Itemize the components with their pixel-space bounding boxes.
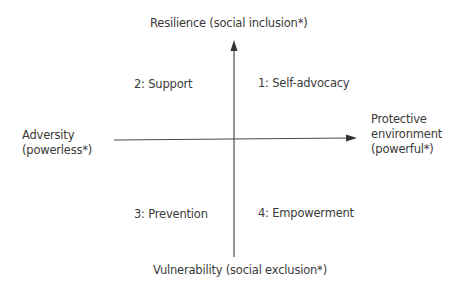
axis-label-bottom: Vulnerability (social exclusion*) (153, 263, 327, 278)
axis-label-left: Adversity (powerless*) (22, 128, 92, 158)
axis-label-top: Resilience (social inclusion*) (150, 16, 308, 31)
quadrant-3-label: 3: Prevention (134, 207, 208, 222)
axis-label-right: Protective environment (powerful*) (371, 112, 442, 157)
quadrant-2-label: 2: Support (134, 77, 192, 92)
arrow-up-icon (231, 40, 238, 51)
axis-label-right-line1: Protective (371, 112, 442, 127)
axis-label-left-line2: (powerless*) (22, 143, 92, 158)
axis-label-right-line2: environment (371, 127, 442, 142)
axis-label-left-line1: Adversity (22, 128, 92, 143)
quadrant-4-label: 4: Empowerment (258, 206, 354, 221)
quadrant-1-label: 1: Self-advocacy (258, 76, 349, 91)
horizontal-axis (114, 138, 348, 140)
axis-label-right-line3: (powerful*) (371, 142, 442, 157)
arrow-right-icon (346, 135, 357, 142)
